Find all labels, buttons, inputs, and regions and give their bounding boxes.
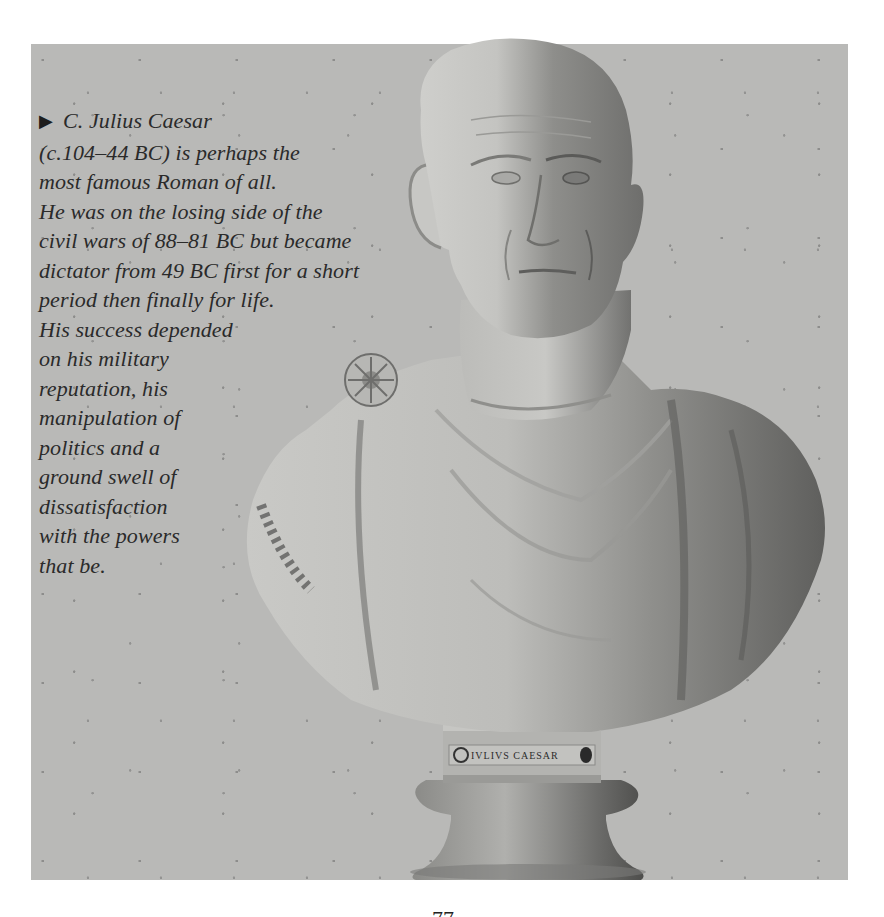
plaque-inscription: IVLIVS CAESAR (471, 750, 559, 761)
caption-line-1: ▶C. Julius Caesar (39, 106, 459, 138)
caption-line-4: He was on the losing side of the (39, 197, 459, 227)
caption-line-13: ground swell of (39, 462, 459, 492)
caption-line-7: period then finally for life. (39, 285, 459, 315)
caption-line-6: dictator from 49 BC first for a short (39, 256, 459, 286)
caption-line-16: that be. (39, 551, 459, 581)
caption-line-10: reputation, his (39, 374, 459, 404)
figure-panel: IVLIVS CAESAR (31, 44, 848, 880)
right-triangle-bullet-icon: ▶ (39, 107, 53, 137)
caption-line-12: politics and a (39, 433, 459, 463)
caption-line-3: most famous Roman of all. (39, 167, 459, 197)
caption-line-5: civil wars of 88–81 BC but became (39, 226, 459, 256)
caption-line-14: dissatisfaction (39, 492, 459, 522)
caption-line-15: with the powers (39, 521, 459, 551)
page-number: 77 (432, 908, 454, 917)
caption-line-11: manipulation of (39, 403, 459, 433)
figure-caption: ▶C. Julius Caesar (c.104–44 BC) is perha… (39, 106, 459, 580)
caption-line-2: (c.104–44 BC) is perhaps the (39, 138, 459, 168)
caption-line-8: His success depended (39, 315, 459, 345)
caption-line-9: on his military (39, 344, 459, 374)
